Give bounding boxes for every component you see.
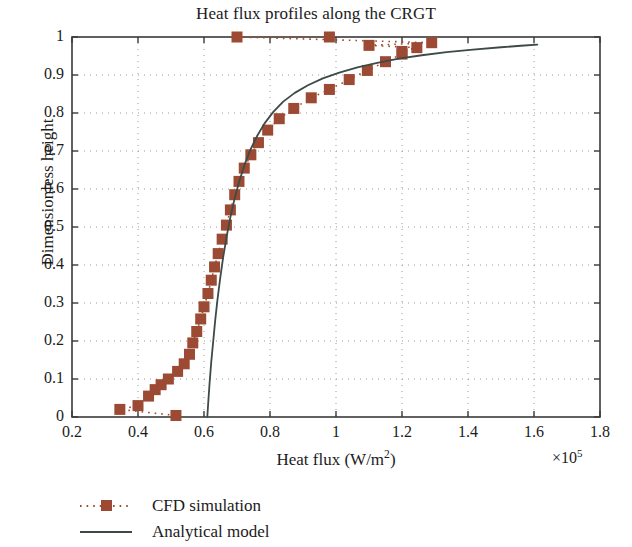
- x-tick-label: 0.2: [47, 423, 97, 441]
- data-point-marker: [209, 261, 220, 272]
- x-tick-label: 1.8: [575, 423, 625, 441]
- x-axis-label-text: Heat flux (W/m: [276, 450, 384, 469]
- y-axis-label: Dimensionless height: [38, 62, 58, 322]
- data-point-marker: [195, 313, 206, 324]
- data-point-marker: [187, 337, 198, 348]
- data-point-marker: [199, 301, 210, 312]
- x-axis-exponent: ×105: [552, 447, 583, 467]
- x-axis-label: Heat flux (W/m2): [72, 448, 600, 470]
- y-tick-label: 0.2: [20, 331, 64, 349]
- data-point-marker: [274, 113, 285, 124]
- data-point-marker: [411, 42, 422, 53]
- x-tick-label: 0.6: [179, 423, 229, 441]
- data-point-marker: [202, 288, 213, 299]
- legend-sample-solid-line-icon: [78, 521, 134, 543]
- x-tick-label: 1.2: [377, 423, 427, 441]
- chart-legend: CFD simulation Analytical model: [78, 493, 498, 545]
- data-point-marker: [179, 358, 190, 369]
- series-line-cfd-simulation: [120, 37, 432, 415]
- data-point-marker: [426, 37, 437, 48]
- data-point-marker: [232, 32, 243, 43]
- y-tick-label: 0.1: [20, 369, 64, 387]
- chart-figure: Heat flux profiles along the CRGT 00.10.…: [0, 0, 632, 547]
- data-point-marker: [324, 84, 335, 95]
- data-point-marker: [184, 349, 195, 360]
- x-tick-label: 1.6: [509, 423, 559, 441]
- data-point-marker: [206, 275, 217, 286]
- data-point-marker: [324, 32, 335, 43]
- data-point-marker: [170, 410, 181, 421]
- data-point-marker: [306, 92, 317, 103]
- legend-item-cfd-simulation: CFD simulation: [78, 493, 498, 519]
- data-point-marker: [397, 46, 408, 57]
- data-point-marker: [288, 103, 299, 114]
- x-tick-label: 0.8: [245, 423, 295, 441]
- x-tick-label: 1.4: [443, 423, 493, 441]
- x-tick-label: 1: [311, 423, 361, 441]
- x-axis-label-tail: ): [390, 450, 396, 469]
- legend-sample-dotted-square-icon: [78, 495, 134, 517]
- legend-label-analytical-model: Analytical model: [134, 522, 270, 542]
- y-tick-label: 1: [20, 27, 64, 45]
- grid-layer: [72, 37, 600, 417]
- legend-item-analytical-model: Analytical model: [78, 519, 498, 545]
- data-point-marker: [344, 74, 355, 85]
- legend-label-cfd-simulation: CFD simulation: [134, 496, 261, 516]
- series-line-analytical-model: [207, 45, 537, 417]
- x-axis-exponent-power: 5: [577, 447, 583, 459]
- data-point-marker: [213, 248, 224, 259]
- x-tick-label: 0.4: [113, 423, 163, 441]
- data-point-marker: [114, 404, 125, 415]
- x-axis-exponent-base: ×10: [552, 449, 577, 466]
- data-point-marker: [133, 400, 144, 411]
- data-series-layer: [114, 32, 537, 421]
- data-point-marker: [364, 40, 375, 51]
- data-point-marker: [191, 326, 202, 337]
